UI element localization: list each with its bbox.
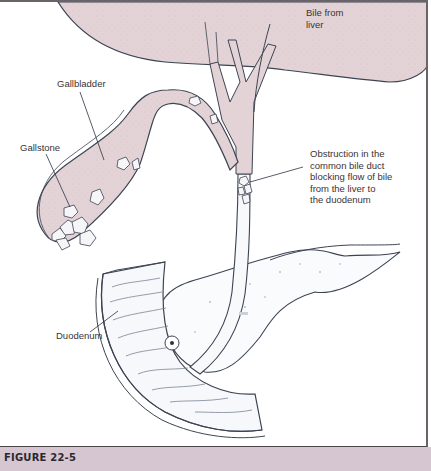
label-gallbladder: Gallbladder xyxy=(57,78,106,90)
label-obstruction: Obstruction in the common bile duct bloc… xyxy=(310,148,392,206)
figure-panel: Bile from liver Gallbladder Gallstone Ob… xyxy=(0,0,428,447)
anatomy-illustration xyxy=(0,2,428,447)
label-gallstone: Gallstone xyxy=(20,142,60,154)
label-duodenum: Duodenum xyxy=(56,330,102,342)
label-bile-from-liver: Bile from liver xyxy=(306,7,343,30)
caption-bar: FIGURE 22-5 xyxy=(0,447,431,471)
pancreas-shape xyxy=(160,250,400,372)
figure-caption: FIGURE 22-5 xyxy=(4,452,76,463)
